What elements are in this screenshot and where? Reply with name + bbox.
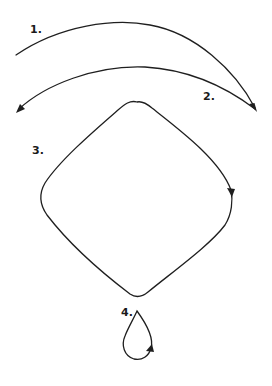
label-2: 2. (203, 91, 215, 102)
label-1: 1. (30, 24, 42, 35)
label-3: 3. (32, 145, 44, 156)
path-2-arc (16, 67, 255, 113)
arrowhead-3-icon (227, 188, 235, 197)
label-4: 4. (121, 307, 133, 318)
arrowhead-4-icon (146, 344, 154, 352)
path-3-loop (41, 101, 235, 296)
diagram-svg (0, 0, 272, 386)
diagram-canvas: 1. 2. 3. 4. (0, 0, 272, 386)
